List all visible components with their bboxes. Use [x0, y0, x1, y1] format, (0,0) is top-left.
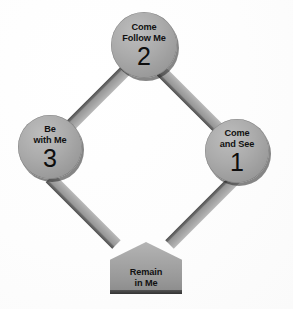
node-be-with-me[interactable]: Be with Me 3: [18, 115, 82, 179]
node-remain-in-me-line2: in Me: [135, 278, 158, 288]
node-come-and-see[interactable]: Come and See 1: [205, 119, 269, 183]
connector-shadow: [46, 180, 115, 249]
node-come-follow-me-label: Come Follow Me: [122, 22, 166, 43]
node-be-with-me-line1: Be: [44, 124, 56, 134]
cycle-diagram: Remain in Me Be with Me 3 Come Follow Me…: [0, 0, 293, 309]
node-be-with-me-label: Be with Me: [34, 124, 67, 145]
node-come-follow-me-number: 2: [137, 44, 151, 68]
connector-face: [165, 174, 240, 249]
node-remain-in-me-label: Remain in Me: [130, 267, 163, 288]
node-come-and-see-number: 1: [230, 150, 244, 174]
connector-left-to-bottom: [46, 174, 121, 249]
node-come-and-see-line1: Come: [224, 128, 249, 138]
node-remain-in-me[interactable]: Remain in Me: [110, 242, 182, 294]
node-be-with-me-number: 3: [43, 146, 57, 170]
node-come-follow-me-line2: Follow Me: [122, 33, 166, 43]
node-remain-in-me-line1: Remain: [130, 267, 163, 277]
node-come-and-see-label: Come and See: [220, 128, 255, 149]
pentagon-shadow: [110, 290, 182, 294]
connector-right-to-bottom: [165, 174, 240, 249]
node-come-follow-me-line1: Come: [131, 22, 156, 32]
connector-face: [46, 174, 121, 249]
connector-shadow: [154, 70, 221, 137]
node-come-follow-me[interactable]: Come Follow Me 2: [111, 12, 177, 78]
node-come-and-see-line2: and See: [220, 139, 255, 149]
node-be-with-me-line2: with Me: [34, 135, 67, 145]
connector-shadow: [165, 174, 234, 243]
